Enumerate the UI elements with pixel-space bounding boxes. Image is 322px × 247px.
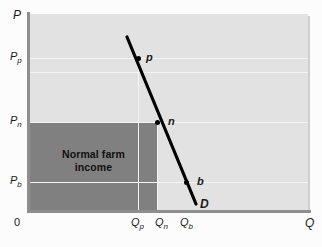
x-tick-label-Qn: Qn bbox=[155, 216, 168, 231]
gridline-Pb bbox=[30, 182, 308, 183]
income-label-line1: Normal farm bbox=[30, 148, 157, 161]
gridline-Pp bbox=[30, 58, 308, 59]
y-tick-label-Pn: Pn bbox=[10, 114, 22, 129]
gridline-upper-secondary bbox=[30, 72, 308, 73]
origin-label: 0 bbox=[14, 216, 20, 228]
demand-curve-label: D bbox=[200, 197, 209, 211]
income-label-line2: income bbox=[30, 161, 157, 174]
point-marker-b bbox=[184, 180, 189, 185]
x-tick-label-Qp: Qp bbox=[131, 216, 144, 231]
point-marker-p bbox=[136, 56, 141, 61]
point-marker-n bbox=[155, 120, 160, 125]
gridline-Qn bbox=[157, 122, 158, 211]
point-label-n: n bbox=[168, 115, 175, 127]
normal-farm-income-label: Normal farm income bbox=[30, 148, 157, 173]
y-axis bbox=[27, 12, 30, 213]
point-label-b: b bbox=[197, 175, 204, 187]
x-axis-label: Q bbox=[305, 216, 314, 230]
x-axis bbox=[27, 210, 311, 213]
y-axis-label: P bbox=[13, 8, 21, 22]
economics-diagram: Normal farm income p n b D P Q 0 Pp Pn P… bbox=[0, 0, 322, 247]
y-tick-label-Pp: Pp bbox=[10, 50, 22, 65]
gridline-Qp bbox=[138, 58, 139, 211]
y-tick-label-Pb: Pb bbox=[10, 174, 22, 189]
point-label-p: p bbox=[146, 51, 153, 63]
x-tick-label-Qb: Qb bbox=[180, 216, 193, 231]
